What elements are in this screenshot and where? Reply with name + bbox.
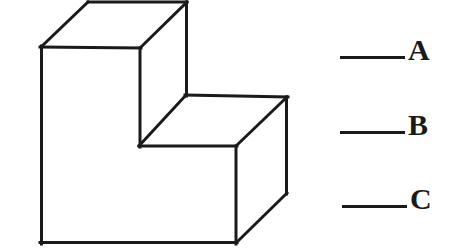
answer-label-a: A bbox=[408, 33, 430, 67]
block-faces bbox=[41, 2, 287, 243]
answer-blank-line-a[interactable] bbox=[340, 56, 405, 59]
answer-label-c: C bbox=[410, 182, 432, 216]
figure-page: A B C bbox=[0, 0, 451, 252]
answer-label-b: B bbox=[408, 108, 428, 142]
answer-blank-b[interactable]: B bbox=[340, 108, 428, 142]
edge-step-top-back bbox=[185, 95, 288, 97]
answer-blank-line-c[interactable] bbox=[342, 205, 407, 208]
edge-top-face-front bbox=[40, 47, 141, 48]
answer-blank-c[interactable]: C bbox=[342, 182, 432, 216]
answer-blank-a[interactable]: A bbox=[340, 33, 430, 67]
answer-blank-line-b[interactable] bbox=[340, 131, 405, 134]
